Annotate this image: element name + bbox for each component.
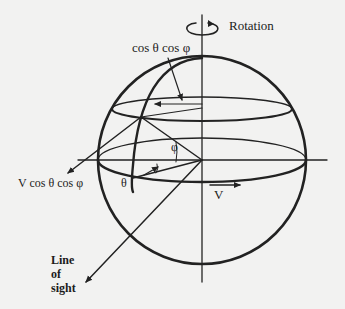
rotation-label: Rotation <box>229 19 274 32</box>
line-of-sight-label: Line of sight <box>51 253 76 295</box>
rotation-arrowhead <box>208 20 214 27</box>
theta-label: θ <box>121 177 127 189</box>
cos-theta-cos-phi-label: cos θ cos φ <box>132 41 190 54</box>
radius-to-equator-point <box>133 160 202 178</box>
phi-label: φ <box>171 141 178 153</box>
latitude-radius <box>141 108 202 117</box>
v-cos-theta-cos-phi-label: V cos θ cos φ <box>18 177 83 189</box>
diagram-canvas: Rotation cos θ cos φ V cos θ cos φ θ φ V… <box>0 0 345 309</box>
velocity-label: V <box>214 188 223 201</box>
